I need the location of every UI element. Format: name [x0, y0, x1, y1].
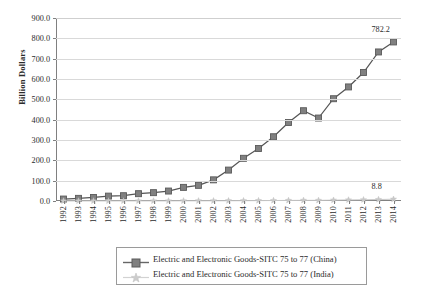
- y-tick-label: 800.0: [0, 34, 50, 43]
- x-tick-label: 2001: [194, 206, 203, 223]
- y-tick-mark: [53, 79, 56, 80]
- x-tick-label: 2003: [224, 206, 233, 223]
- x-tick-mark: [349, 201, 350, 204]
- y-tick-mark: [53, 18, 56, 19]
- x-tick-mark: [184, 201, 185, 204]
- y-tick-label: 900.0: [0, 14, 50, 23]
- x-tick-label: 2013: [374, 206, 383, 223]
- x-tick-label: 1993: [74, 206, 83, 223]
- x-tick-label: 2008: [299, 206, 308, 223]
- y-tick-label: 300.0: [0, 136, 50, 145]
- x-tick-label: 2005: [254, 206, 263, 223]
- data-point-marker: [196, 182, 202, 188]
- x-tick-mark: [214, 201, 215, 204]
- data-point-marker: [151, 190, 157, 196]
- x-tick-mark: [124, 201, 125, 204]
- y-tick-mark: [53, 140, 56, 141]
- x-tick-label: 2004: [239, 206, 248, 223]
- y-tick-mark: [53, 120, 56, 121]
- x-tick-mark: [199, 201, 200, 204]
- gridline: [56, 99, 401, 100]
- gridline: [56, 120, 401, 121]
- chart-legend: Electric and Electronic Goods-SITC 75 to…: [116, 247, 367, 285]
- data-point-marker: [271, 134, 277, 140]
- legend-label-china: Electric and Electronic Goods-SITC 75 to…: [153, 254, 337, 265]
- y-tick-label: 500.0: [0, 95, 50, 104]
- gridline: [56, 38, 401, 39]
- data-point-marker: [346, 84, 352, 90]
- x-tick-mark: [154, 201, 155, 204]
- india-last-value: 8.8: [372, 182, 382, 191]
- gridline: [56, 140, 401, 141]
- x-tick-mark: [334, 201, 335, 204]
- data-point-marker: [376, 49, 382, 55]
- x-tick-label: 2012: [359, 206, 368, 223]
- x-tick-mark: [379, 201, 380, 204]
- x-tick-mark: [64, 201, 65, 204]
- data-point-marker: [226, 167, 232, 173]
- data-point-marker: [256, 146, 262, 152]
- x-tick-mark: [304, 201, 305, 204]
- series-layer: [56, 18, 401, 201]
- x-tick-label: 2014: [389, 206, 398, 223]
- legend-label-india: Electric and Electronic Goods-SITC 75 to…: [153, 269, 334, 280]
- x-tick-label: 1999: [164, 206, 173, 223]
- gridline: [56, 18, 401, 19]
- y-tick-mark: [53, 38, 56, 39]
- y-tick-label: 100.0: [0, 176, 50, 185]
- x-tick-label: 1995: [104, 206, 113, 223]
- y-tick-label: 0.0: [0, 197, 50, 206]
- gridline: [56, 181, 401, 182]
- x-tick-mark: [319, 201, 320, 204]
- legend-item-india[interactable]: Electric and Electronic Goods-SITC 75 to…: [123, 267, 360, 282]
- gridline: [56, 79, 401, 80]
- x-tick-mark: [169, 201, 170, 204]
- data-point-marker: [391, 39, 397, 45]
- x-tick-label: 2007: [284, 206, 293, 223]
- gridline: [56, 59, 401, 60]
- x-tick-mark: [244, 201, 245, 204]
- gridline: [56, 160, 401, 161]
- data-point-marker: [361, 69, 367, 75]
- x-tick-label: 1992: [59, 206, 68, 223]
- y-tick-mark: [53, 201, 56, 202]
- data-point-marker: [166, 188, 172, 194]
- x-tick-label: 1994: [89, 206, 98, 223]
- x-tick-label: 1998: [149, 206, 158, 223]
- china-last-value: 782.2: [372, 25, 390, 34]
- x-tick-label: 2006: [269, 206, 278, 223]
- y-tick-mark: [53, 181, 56, 182]
- y-tick-label: 700.0: [0, 54, 50, 63]
- legend-item-china[interactable]: Electric and Electronic Goods-SITC 75 to…: [123, 252, 360, 267]
- x-tick-mark: [79, 201, 80, 204]
- data-point-marker: [301, 108, 307, 114]
- x-tick-label: 1996: [119, 206, 128, 223]
- x-tick-label: 2000: [179, 206, 188, 223]
- x-tick-mark: [94, 201, 95, 204]
- y-tick-label: 400.0: [0, 115, 50, 124]
- x-tick-mark: [229, 201, 230, 204]
- data-point-marker: [136, 191, 142, 197]
- y-tick-label: 600.0: [0, 75, 50, 84]
- legend-marker-star-icon: [123, 269, 149, 280]
- x-tick-label: 1997: [134, 206, 143, 223]
- line-chart: Billion Dollars 0.0100.0200.0300.0400.05…: [0, 0, 421, 298]
- x-tick-label: 2010: [329, 206, 338, 223]
- x-tick-mark: [109, 201, 110, 204]
- x-tick-mark: [394, 201, 395, 204]
- y-tick-mark: [53, 99, 56, 100]
- x-tick-mark: [139, 201, 140, 204]
- y-tick-mark: [53, 59, 56, 60]
- x-tick-mark: [259, 201, 260, 204]
- x-tick-mark: [289, 201, 290, 204]
- x-tick-label: 2002: [209, 206, 218, 223]
- x-tick-mark: [274, 201, 275, 204]
- x-tick-label: 2009: [314, 206, 323, 223]
- data-point-marker: [181, 184, 187, 190]
- x-tick-label: 2011: [344, 206, 353, 222]
- legend-marker-square-icon: [123, 254, 149, 265]
- y-tick-label: 200.0: [0, 156, 50, 165]
- x-tick-mark: [364, 201, 365, 204]
- y-tick-mark: [53, 160, 56, 161]
- plot-area: [56, 18, 401, 201]
